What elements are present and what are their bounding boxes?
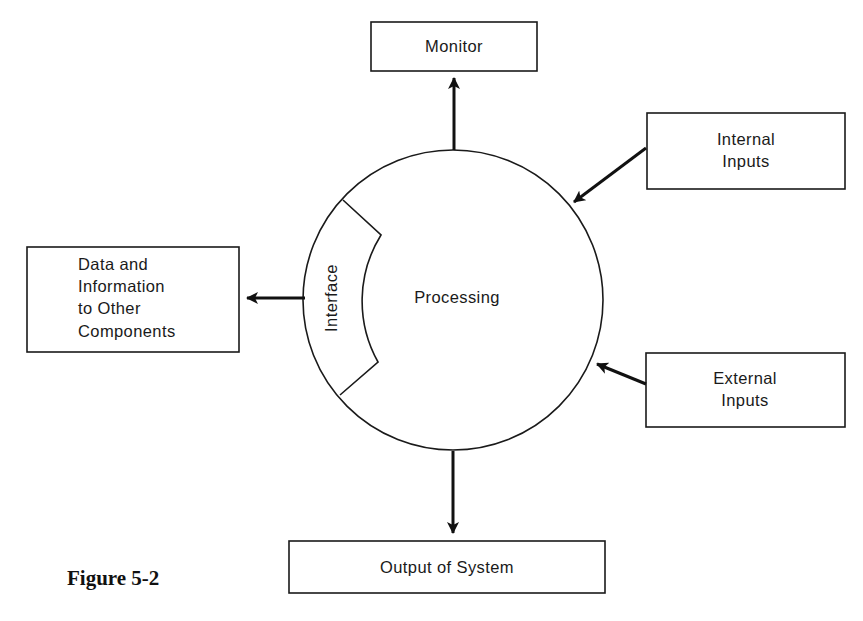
data-out-label-line2: Information xyxy=(78,277,165,295)
internal-inputs-label-line2: Inputs xyxy=(722,152,769,170)
system-component-diagram: Monitor Internal Inputs External Inputs … xyxy=(0,0,863,621)
interface-label: Interface xyxy=(322,264,340,332)
processing-label: Processing xyxy=(414,288,500,306)
processing-circle: Processing xyxy=(303,150,603,450)
data-out-label-line3: to Other xyxy=(78,299,141,317)
external-inputs-box: External Inputs xyxy=(646,353,845,427)
monitor-box: Monitor xyxy=(371,22,537,71)
data-out-label-line1: Data and xyxy=(78,255,148,273)
monitor-label: Monitor xyxy=(425,37,483,55)
external-inputs-label-line2: Inputs xyxy=(721,391,768,409)
internal-inputs-label-line1: Internal xyxy=(717,130,775,148)
figure-caption: Figure 5-2 xyxy=(67,566,159,590)
internal-inputs-box: Internal Inputs xyxy=(647,113,845,189)
output-label: Output of System xyxy=(380,558,514,576)
data-to-components-box: Data and Information to Other Components xyxy=(27,247,239,352)
output-of-system-box: Output of System xyxy=(289,541,605,593)
arrow-external-inputs-to-processing xyxy=(597,364,646,384)
data-out-label-line4: Components xyxy=(78,322,176,340)
arrow-internal-inputs-to-processing xyxy=(574,148,646,202)
external-inputs-label-line1: External xyxy=(713,369,777,387)
